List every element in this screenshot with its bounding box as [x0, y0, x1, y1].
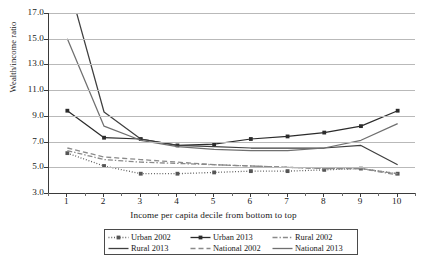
- x-tick-mark: [360, 193, 361, 197]
- x-minor-tick-mark: [158, 193, 159, 196]
- x-tick-mark: [323, 193, 324, 197]
- gridline: [49, 116, 415, 117]
- series-lines: [49, 13, 416, 193]
- data-point-marker: [322, 131, 326, 135]
- y-tick-mark: [44, 13, 48, 14]
- x-tick-mark: [176, 193, 177, 197]
- x-minor-tick-mark: [48, 193, 49, 196]
- y-tick-label: 11.0: [10, 86, 44, 95]
- x-tick-mark: [103, 193, 104, 197]
- legend-line-sample-icon: [108, 244, 129, 253]
- y-axis-tick-labels: 3.05.07.09.011.013.015.017.0: [8, 0, 44, 277]
- legend-row: Urban 2002Urban 2013Rural 2002: [108, 232, 354, 243]
- legend-line-sample-icon: [190, 244, 211, 253]
- y-tick-label: 5.0: [10, 163, 44, 172]
- x-axis-label: Income per capita decile from bottom to …: [0, 210, 427, 220]
- x-tick-label: 6: [235, 196, 265, 206]
- series-line-national-2013: [67, 39, 397, 151]
- x-tick-label: 4: [161, 196, 191, 206]
- x-tick-label: 10: [382, 196, 412, 206]
- y-tick-mark: [44, 142, 48, 143]
- legend-label: Urban 2013: [213, 233, 253, 242]
- chart-legend: Urban 2002Urban 2013Rural 2002Rural 2013…: [104, 229, 358, 255]
- data-point-marker: [139, 172, 143, 176]
- y-tick-label: 9.0: [10, 111, 44, 120]
- y-tick-mark: [44, 64, 48, 65]
- gridline: [49, 90, 415, 91]
- data-point-marker: [65, 109, 69, 113]
- y-tick-mark: [44, 39, 48, 40]
- legend-label: National 2002: [213, 244, 261, 253]
- x-tick-mark: [287, 193, 288, 197]
- gridline: [49, 142, 415, 143]
- x-minor-tick-mark: [415, 193, 416, 196]
- data-point-marker: [212, 142, 216, 146]
- x-minor-tick-mark: [305, 193, 306, 196]
- legend-line-sample-icon: [272, 233, 293, 242]
- legend-item-national-2002[interactable]: National 2002: [190, 243, 272, 254]
- series-line-urban-2002: [67, 153, 397, 174]
- y-tick-mark: [44, 167, 48, 168]
- x-tick-label: 8: [308, 196, 338, 206]
- x-tick-label: 7: [272, 196, 302, 206]
- data-point-marker: [249, 137, 253, 141]
- x-tick-mark: [397, 193, 398, 197]
- data-point-marker: [212, 171, 216, 175]
- x-tick-mark: [213, 193, 214, 197]
- gridline: [49, 13, 415, 14]
- x-tick-label: 3: [125, 196, 155, 206]
- y-tick-label: 3.0: [10, 188, 44, 197]
- x-tick-label: 9: [345, 196, 375, 206]
- y-tick-label: 15.0: [10, 34, 44, 43]
- legend-label: Urban 2002: [131, 233, 171, 242]
- legend-label: National 2013: [295, 244, 343, 253]
- x-minor-tick-mark: [195, 193, 196, 196]
- legend-item-national-2013[interactable]: National 2013: [272, 243, 354, 254]
- data-point-marker: [359, 124, 363, 128]
- gridline: [49, 64, 415, 65]
- x-minor-tick-mark: [232, 193, 233, 196]
- data-point-marker: [249, 169, 253, 173]
- gridline: [49, 167, 415, 168]
- legend-label: Rural 2013: [131, 244, 168, 253]
- x-tick-mark: [250, 193, 251, 197]
- data-point-marker: [65, 151, 69, 155]
- y-tick-mark: [44, 116, 48, 117]
- legend-line-sample-icon: [272, 244, 293, 253]
- gridline: [49, 39, 415, 40]
- series-line-national-2002: [67, 148, 397, 174]
- legend-line-sample-icon: [190, 233, 211, 242]
- plot-area: [48, 13, 415, 193]
- x-tick-mark: [140, 193, 141, 197]
- x-minor-tick-mark: [121, 193, 122, 196]
- chart-figure: Wealth/income ratio 3.05.07.09.011.013.0…: [0, 0, 427, 277]
- x-tick-label: 5: [198, 196, 228, 206]
- y-tick-label: 7.0: [10, 137, 44, 146]
- x-tick-label: 1: [51, 196, 81, 206]
- x-minor-tick-mark: [378, 193, 379, 196]
- legend-item-urban-2002[interactable]: Urban 2002: [108, 232, 190, 243]
- x-minor-tick-mark: [342, 193, 343, 196]
- x-tick-label: 2: [88, 196, 118, 206]
- legend-item-rural-2013[interactable]: Rural 2013: [108, 243, 190, 254]
- legend-row: Rural 2013National 2002National 2013: [108, 243, 354, 254]
- legend-line-sample-icon: [108, 233, 129, 242]
- legend-label: Rural 2002: [295, 233, 332, 242]
- y-tick-label: 13.0: [10, 60, 44, 69]
- data-point-marker: [176, 172, 180, 176]
- data-point-marker: [102, 136, 106, 140]
- data-point-marker: [286, 169, 290, 173]
- legend-item-rural-2002[interactable]: Rural 2002: [272, 232, 354, 243]
- x-tick-mark: [66, 193, 67, 197]
- data-point-marker: [286, 135, 290, 139]
- y-tick-mark: [44, 90, 48, 91]
- legend-item-urban-2013[interactable]: Urban 2013: [190, 232, 272, 243]
- y-tick-label: 17.0: [10, 8, 44, 17]
- x-minor-tick-mark: [268, 193, 269, 196]
- data-point-marker: [396, 109, 400, 113]
- x-minor-tick-mark: [85, 193, 86, 196]
